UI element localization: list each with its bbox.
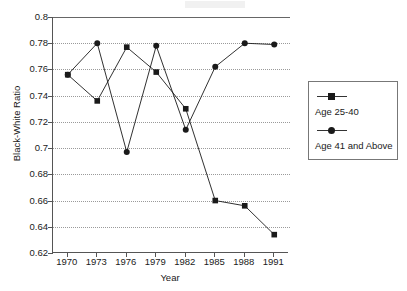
chart-figure: Black-White Ratio 0.620.640.660.680.70.7… — [0, 0, 407, 291]
y-axis-tick-label: 0.64 — [30, 222, 49, 232]
legend-sample-age-41-and-above — [315, 125, 393, 136]
data-point-circle — [153, 43, 159, 49]
y-axis-tick-label: 0.72 — [30, 117, 49, 127]
x-axis-tick-label: 1988 — [233, 257, 254, 267]
legend-entry-age-41-and-above: Age 41 and Above — [315, 125, 393, 151]
data-point-circle — [212, 64, 218, 70]
series-layer — [53, 17, 289, 253]
data-point-square — [212, 198, 218, 204]
x-axis-tick-label: 1982 — [174, 257, 195, 267]
x-axis-tick-label: 1991 — [263, 257, 284, 267]
legend-entry-age-25-40: Age 25-40 — [315, 91, 393, 117]
data-point-circle — [242, 40, 248, 46]
x-axis-tick-label: 1979 — [145, 257, 166, 267]
chart-legend: Age 25-40 Age 41 and Above — [308, 81, 398, 160]
title-artifact — [185, 1, 245, 8]
x-axis-tick-label: 1973 — [86, 257, 107, 267]
data-point-circle — [124, 149, 130, 155]
y-axis-tick-label: 0.8 — [35, 12, 48, 22]
x-axis-title: Year — [52, 272, 288, 283]
circle-marker-icon — [328, 127, 335, 134]
data-point-circle — [94, 40, 100, 46]
y-axis-tick-label: 0.76 — [30, 65, 49, 75]
y-axis-tick-label: 0.78 — [30, 38, 49, 48]
y-axis-tick-label: 0.7 — [35, 143, 48, 153]
x-axis-tick-label: 1970 — [56, 257, 77, 267]
data-point-square — [242, 203, 248, 209]
x-axis-tick-labels: 19701973197619791982198519881991 — [52, 253, 288, 267]
plot-area — [52, 17, 288, 253]
data-point-square — [183, 106, 189, 112]
data-point-square — [271, 232, 277, 238]
data-point-circle — [65, 72, 71, 78]
y-axis-tick-label: 0.74 — [30, 91, 49, 101]
data-point-square — [124, 44, 130, 50]
data-point-circle — [183, 127, 189, 133]
data-point-square — [153, 69, 159, 75]
data-point-square — [94, 98, 100, 104]
y-axis-tick-labels: 0.620.640.660.680.70.720.740.760.780.8 — [0, 17, 48, 253]
legend-label-age-25-40: Age 25-40 — [315, 107, 393, 117]
legend-sample-age-25-40 — [315, 91, 393, 102]
data-point-circle — [271, 42, 277, 48]
y-axis-tick-label: 0.62 — [30, 248, 49, 258]
x-axis-tick-label: 1985 — [204, 257, 225, 267]
y-axis-tick-label: 0.68 — [30, 170, 49, 180]
x-axis-tick-label: 1976 — [115, 257, 136, 267]
legend-label-age-41-and-above: Age 41 and Above — [315, 141, 393, 151]
square-marker-icon — [328, 93, 335, 100]
y-axis-tick-label: 0.66 — [30, 196, 49, 206]
